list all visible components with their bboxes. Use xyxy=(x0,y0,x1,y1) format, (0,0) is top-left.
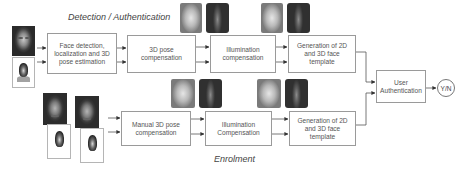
face-recognition-pipeline-diagram: Detection / Authentication Enrolment Fac… xyxy=(0,0,464,171)
enrolment-label: Enrolment xyxy=(214,154,255,164)
top-pose-texture-thumb xyxy=(180,3,202,33)
shoulder-shape xyxy=(17,76,30,82)
template-generation-box: Generation of 2D and 3D face template xyxy=(288,35,356,73)
input-photo-top xyxy=(12,26,35,56)
user-authentication-box: User Authentication xyxy=(376,70,426,103)
enrol-depth-scan-2 xyxy=(80,128,104,163)
bottom-pose-texture-thumb xyxy=(171,79,195,108)
enrol-illumination-compensation-box: Illumination Compensation xyxy=(205,111,272,146)
bottom-illum-depth-thumb xyxy=(285,79,308,108)
illumination-compensation-box: Illumination compensation xyxy=(210,35,276,73)
enrol-template-generation-box: Generation of 2D and 3D face template xyxy=(289,111,356,146)
mouth-shape xyxy=(51,115,58,116)
mouth-shape xyxy=(83,118,90,119)
top-illum-depth-thumb xyxy=(287,3,310,33)
enrol-depth-scan-1 xyxy=(47,124,71,159)
pose-compensation-box: 3D pose compensation xyxy=(127,35,196,73)
yes-no-output-node: Y/N xyxy=(437,79,455,97)
top-illum-texture-thumb xyxy=(261,3,283,33)
face-detection-box: Face detection, localization and 3D pose… xyxy=(47,33,117,74)
eye-shape xyxy=(18,37,22,39)
head-shape xyxy=(55,131,64,147)
enrol-photo-1 xyxy=(43,93,67,125)
bottom-pose-depth-thumb xyxy=(199,79,222,108)
top-pose-depth-thumb xyxy=(206,3,229,33)
enrol-photo-2 xyxy=(75,96,99,128)
manual-pose-compensation-box: Manual 3D pose compensation xyxy=(121,111,191,146)
head-shape xyxy=(88,135,97,151)
detection-authentication-label: Detection / Authentication xyxy=(68,12,170,22)
eye-shape xyxy=(25,37,29,39)
bottom-illum-texture-thumb xyxy=(257,79,281,108)
input-depth-scan-top xyxy=(12,57,35,88)
